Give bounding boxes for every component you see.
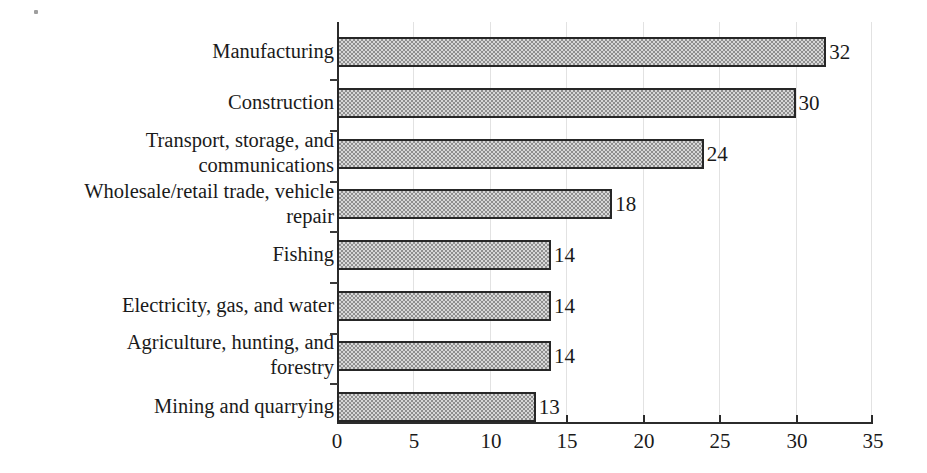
x-tick-15: [566, 415, 568, 424]
y-tick-4: [330, 231, 338, 233]
category-label-line: Mining and quarrying: [0, 394, 334, 419]
y-tick-5: [330, 282, 338, 284]
x-tick-25: [719, 415, 721, 424]
bar-mining-and-quarrying[interactable]: [337, 392, 536, 422]
y-tick-1: [330, 79, 338, 81]
category-label-transport-storage-communications: Transport, storage, and communications: [0, 128, 340, 178]
x-tick-20: [643, 415, 645, 424]
bar-manufacturing[interactable]: [337, 37, 826, 67]
category-label-mining-and-quarrying: Mining and quarrying: [0, 394, 340, 419]
gridline-25: [719, 22, 720, 423]
bar-value-label: 30: [799, 88, 820, 118]
bar-value-label: 13: [539, 392, 560, 422]
category-label-line: repair: [0, 204, 334, 229]
x-tick-label-30: 30: [787, 429, 808, 453]
bar-construction[interactable]: [337, 88, 796, 118]
bar-value-label: 32: [829, 37, 850, 67]
y-tick-7: [330, 383, 338, 385]
bar-wholesale-retail-trade-vehicle-repair[interactable]: [337, 189, 612, 219]
bar-chart: 32 30 24 18 14 14 14 13 Manufacturing Co…: [0, 0, 927, 473]
gridline-20: [643, 22, 644, 423]
bar-transport-storage-communications[interactable]: [337, 139, 704, 169]
bar-fishing[interactable]: [337, 240, 551, 270]
category-label-fishing: Fishing: [0, 242, 340, 267]
category-label-line: Fishing: [0, 242, 334, 267]
category-label-line: Manufacturing: [0, 39, 334, 64]
bar-electricity-gas-water[interactable]: [337, 291, 551, 321]
bar-value-label: 14: [554, 240, 575, 270]
x-axis-end-tick: [871, 415, 873, 424]
scan-artifact-speck: [34, 10, 38, 14]
x-tick-label-25: 25: [710, 429, 731, 453]
category-label-line: communications: [0, 153, 334, 178]
x-axis-line: [337, 422, 873, 424]
x-tick-label-0: 0: [332, 429, 343, 453]
gridline-30: [796, 22, 797, 423]
category-label-manufacturing: Manufacturing: [0, 39, 340, 64]
bar-value-label: 18: [615, 189, 636, 219]
x-tick-label-10: 10: [481, 429, 502, 453]
category-label-electricity-gas-water: Electricity, gas, and water: [0, 293, 340, 318]
x-tick-label-20: 20: [634, 429, 655, 453]
category-label-line: Electricity, gas, and water: [0, 293, 334, 318]
gridline-35: [871, 22, 872, 423]
x-tick-label-5: 5: [409, 429, 420, 453]
x-tick-label-15: 15: [557, 429, 578, 453]
category-label-line: Transport, storage, and: [0, 128, 334, 153]
category-label-line: forestry: [0, 355, 334, 380]
category-label-line: Agriculture, hunting, and: [0, 330, 334, 355]
category-label-wholesale-retail-trade-vehicle-repair: Wholesale/retail trade, vehicle repair: [0, 179, 340, 229]
category-label-construction: Construction: [0, 90, 340, 115]
bar-value-label: 14: [554, 341, 575, 371]
bar-agriculture-hunting-forestry[interactable]: [337, 341, 551, 371]
x-tick-30: [796, 415, 798, 424]
bar-value-label: 14: [554, 291, 575, 321]
category-label-line: Wholesale/retail trade, vehicle: [0, 179, 334, 204]
category-label-line: Construction: [0, 90, 334, 115]
category-label-agriculture-hunting-forestry: Agriculture, hunting, and forestry: [0, 330, 340, 380]
x-tick-label-35: 35: [863, 429, 884, 453]
bar-value-label: 24: [707, 139, 728, 169]
